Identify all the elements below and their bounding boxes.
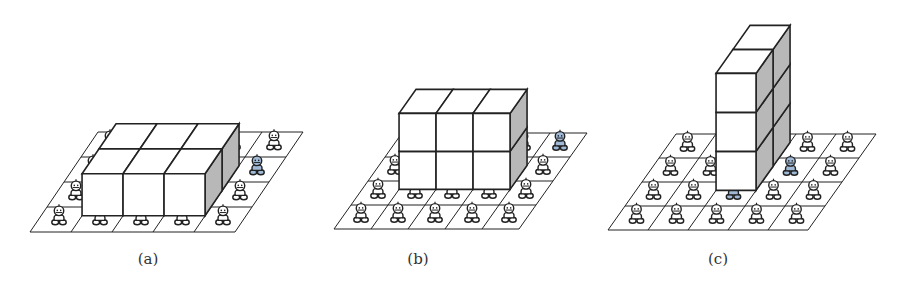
cube-block (399, 89, 527, 189)
cube-front-face (473, 151, 510, 189)
cube-block (716, 25, 790, 190)
panel-b (334, 89, 587, 229)
panel-a (30, 124, 303, 232)
cube-front-face (82, 174, 123, 216)
caption-b: (b) (407, 250, 428, 268)
cube-front-face (716, 73, 756, 112)
cube-front-face (716, 112, 756, 151)
caption-a: (a) (138, 250, 159, 268)
cube-front-face (436, 151, 473, 189)
cube-front-face (164, 174, 205, 216)
cube-front-face (123, 174, 164, 216)
cube-front-face (436, 113, 473, 151)
cube-front-face (716, 151, 756, 190)
cube-front-face (399, 151, 436, 189)
panel-c (608, 25, 876, 230)
cube-front-face (473, 113, 510, 151)
cube-front-face (399, 113, 436, 151)
cube-diagram (0, 0, 913, 289)
caption-c: (c) (708, 250, 728, 268)
